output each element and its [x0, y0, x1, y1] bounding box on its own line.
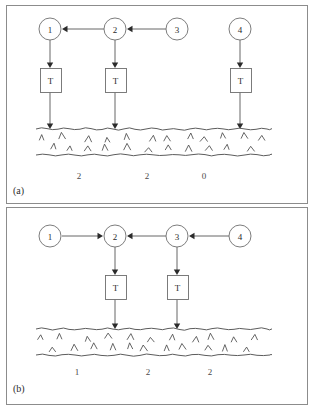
grass-tuft-icon	[102, 144, 108, 150]
ground-base-line	[36, 154, 272, 156]
treatment-box-label: T	[238, 76, 244, 86]
grass-tuft-icon	[84, 146, 91, 151]
node-label: 3	[175, 232, 180, 242]
grass-tuft-icon	[205, 345, 212, 350]
node-label: 4	[238, 25, 243, 35]
node-label: 3	[175, 25, 180, 35]
count-label: 2	[146, 367, 151, 377]
count-label: 0	[202, 171, 207, 181]
arrow-head-down-icon	[112, 324, 118, 330]
grass-tuft-icon	[205, 146, 212, 151]
count-label: 2	[145, 171, 150, 181]
grass-tuft-icon	[140, 345, 147, 351]
panel-caption: (a)	[13, 185, 24, 197]
grass-tuft-icon	[247, 146, 254, 151]
ground-surface-line	[36, 328, 272, 330]
grass-tuft-icon	[57, 333, 62, 339]
arrow-head-down-icon	[112, 124, 118, 130]
grass-tuft-icon	[164, 136, 170, 141]
grass-tuft-icon	[38, 335, 43, 340]
arrow-head-down-icon	[112, 270, 118, 276]
grass-tuft-icon	[223, 345, 228, 352]
grass-tuft-icon	[179, 344, 186, 350]
grass-tuft-icon	[85, 136, 92, 142]
grass-tuft-icon	[148, 337, 155, 341]
grass-tuft-icon	[67, 146, 72, 151]
grass-tuft-icon	[110, 343, 115, 350]
grass-tuft-icon	[127, 334, 134, 340]
grass-tuft-icon	[193, 336, 199, 342]
arrow-head-down-icon	[47, 63, 53, 69]
grass-tuft-icon	[224, 144, 229, 149]
grass-tuft-icon	[91, 343, 97, 349]
grass-tuft-icon	[241, 133, 248, 139]
grass-tuft-icon	[49, 347, 55, 351]
grass-tuft-icon	[128, 343, 133, 349]
arrow-head-left-icon	[127, 26, 133, 32]
diagram-canvas: TTT1234220(a)TT1234122(b)	[0, 0, 313, 409]
arrow-head-down-icon	[174, 270, 180, 276]
arrow-head-left-icon	[127, 233, 133, 239]
arrow-head-down-icon	[47, 124, 53, 130]
grass-tuft-icon	[71, 344, 78, 350]
grass-tuft-icon	[188, 133, 193, 139]
node-label: 2	[113, 25, 118, 35]
treatment-box-label: T	[48, 76, 54, 86]
grass-tuft-icon	[124, 133, 129, 139]
grass-tuft-icon	[59, 132, 66, 138]
grass-tuft-icon	[170, 334, 175, 340]
grass-tuft-icon	[208, 333, 214, 339]
treatment-box-label: T	[175, 283, 181, 293]
grass-tuft-icon	[85, 336, 90, 341]
grass-tuft-icon	[200, 137, 207, 142]
count-label: 1	[75, 367, 80, 377]
grass-tuft-icon	[124, 143, 131, 149]
panel-caption: (b)	[13, 383, 25, 395]
arrow-head-left-icon	[189, 233, 195, 239]
arrow-head-down-icon	[237, 63, 243, 69]
treatment-box-label: T	[113, 283, 119, 293]
grass-tuft-icon	[150, 135, 156, 141]
node-label: 1	[48, 25, 53, 35]
grass-tuft-icon	[251, 334, 257, 339]
arrow-head-right-icon	[98, 233, 104, 239]
node-label: 1	[48, 232, 53, 242]
grass-tuft-icon	[259, 135, 265, 140]
grass-tuft-icon	[164, 345, 169, 351]
grass-tuft-icon	[145, 148, 152, 152]
ground-surface-line	[36, 128, 272, 130]
treatment-box-label: T	[113, 76, 119, 86]
grass-tuft-icon	[39, 135, 43, 140]
node-label: 4	[238, 232, 243, 242]
ground-base-line	[36, 354, 272, 356]
grass-tuft-icon	[105, 333, 112, 338]
grass-tuft-icon	[185, 145, 191, 151]
arrow-head-down-icon	[112, 63, 118, 69]
grass-tuft-icon	[244, 347, 250, 351]
count-label: 2	[208, 367, 213, 377]
grass-tuft-icon	[231, 337, 236, 342]
arrow-head-left-icon	[62, 26, 68, 32]
grass-tuft-icon	[221, 133, 226, 138]
node-label: 2	[113, 232, 118, 242]
grass-tuft-icon	[105, 137, 110, 142]
figure-root: TTT1234220(a)TT1234122(b)	[0, 0, 313, 409]
count-label: 2	[77, 171, 82, 181]
grass-tuft-icon	[51, 143, 56, 149]
grass-tuft-icon	[165, 145, 171, 150]
